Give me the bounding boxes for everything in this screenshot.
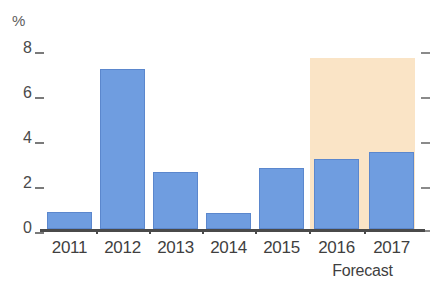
x-axis-label-2016: 2016: [309, 238, 364, 258]
y-tick-mark-0: [35, 232, 44, 234]
y-tick-mark-6: [35, 97, 44, 99]
x-tick-mark-1: [96, 229, 98, 234]
right-tick-mark-2: [421, 187, 430, 189]
bar-chart: % 8 6 4 2 0 2011: [0, 0, 432, 287]
x-axis-label-2012: 2012: [95, 238, 150, 258]
forecast-label: Forecast: [310, 262, 415, 280]
x-axis-label-2017: 2017: [364, 238, 419, 258]
y-tick-mark-4: [35, 142, 44, 144]
x-tick-mark-5: [309, 229, 311, 234]
plot-area: % 8 6 4 2 0 2011: [0, 0, 432, 287]
x-tick-mark-3: [202, 229, 204, 234]
bar-2012: [100, 69, 145, 229]
bar-2011: [47, 212, 92, 229]
x-tick-mark-2: [149, 229, 151, 234]
bar-2015: [259, 168, 304, 229]
right-tick-mark-4: [421, 142, 430, 144]
x-tick-mark-4: [255, 229, 257, 234]
x-axis-label-2013: 2013: [148, 238, 203, 258]
y-tick-label-0: 0: [10, 219, 32, 237]
bar-2016: [314, 159, 359, 229]
y-tick-mark-2: [35, 187, 44, 189]
y-tick-label-8: 8: [10, 39, 32, 57]
x-axis-label-2014: 2014: [201, 238, 256, 258]
y-tick-mark-8: [35, 52, 44, 54]
y-axis-unit-label: %: [12, 12, 25, 29]
bar-2017: [369, 152, 414, 229]
x-tick-mark-6: [364, 229, 366, 234]
y-tick-label-2: 2: [10, 174, 32, 192]
x-axis-label-2015: 2015: [254, 238, 309, 258]
bar-2014: [206, 213, 251, 229]
right-tick-mark-6: [421, 97, 430, 99]
y-tick-label-6: 6: [10, 84, 32, 102]
x-axis-label-2011: 2011: [42, 238, 97, 258]
bar-2013: [153, 172, 198, 229]
y-tick-label-4: 4: [10, 129, 32, 147]
right-tick-mark-8: [421, 52, 430, 54]
